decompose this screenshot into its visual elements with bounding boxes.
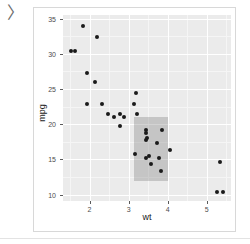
data-point: [168, 148, 172, 152]
y-tick-label: 20: [36, 121, 56, 128]
plot-card: wt mpg 1015202530352345: [33, 7, 236, 232]
data-point: [85, 71, 89, 75]
data-point: [106, 112, 110, 116]
data-point: [95, 35, 99, 39]
x-tick-mark: [129, 201, 130, 204]
gridline-minor-vertical: [226, 15, 227, 201]
y-tick-label: 10: [36, 191, 56, 198]
data-point: [215, 190, 219, 194]
data-point: [144, 138, 148, 142]
y-tick-label: 30: [36, 50, 56, 57]
data-point: [218, 160, 222, 164]
gridline-major-vertical: [168, 15, 169, 201]
x-tick-label: 3: [122, 206, 136, 213]
y-tick-mark: [60, 159, 63, 160]
data-point: [144, 128, 148, 132]
data-point: [135, 112, 139, 116]
x-tick-mark: [168, 201, 169, 204]
pane-divider: [0, 238, 250, 239]
data-point: [73, 49, 77, 53]
y-tick-mark: [60, 54, 63, 55]
chart-panel: [63, 15, 231, 201]
console-prompt-icon: 〉: [4, 3, 26, 25]
x-tick-label: 4: [161, 206, 175, 213]
data-point: [134, 91, 138, 95]
plot-pane: 〉 wt mpg 1015202530352345: [0, 0, 250, 244]
data-point: [69, 49, 73, 53]
gridline-major-vertical: [129, 15, 130, 201]
data-point: [118, 124, 122, 128]
gridline-major-vertical: [207, 15, 208, 201]
x-axis-title: wt: [63, 212, 231, 222]
gridline-minor-vertical: [109, 15, 110, 201]
gridline-major-vertical: [90, 15, 91, 201]
data-point: [93, 80, 97, 84]
y-tick-label: 35: [36, 15, 56, 22]
data-point: [122, 115, 126, 119]
y-tick-mark: [60, 19, 63, 20]
data-point: [160, 128, 164, 132]
y-tick-mark: [60, 195, 63, 196]
data-point: [112, 115, 116, 119]
data-point: [221, 190, 225, 194]
gridline-minor-vertical: [70, 15, 71, 201]
y-tick-mark: [60, 89, 63, 90]
x-tick-mark: [90, 201, 91, 204]
x-tick-label: 2: [83, 206, 97, 213]
y-tick-mark: [60, 124, 63, 125]
data-point: [81, 24, 85, 28]
y-tick-label: 25: [36, 85, 56, 92]
y-tick-label: 15: [36, 156, 56, 163]
x-tick-label: 5: [200, 206, 214, 213]
x-tick-mark: [207, 201, 208, 204]
data-point: [144, 156, 148, 160]
gridline-minor-vertical: [187, 15, 188, 201]
